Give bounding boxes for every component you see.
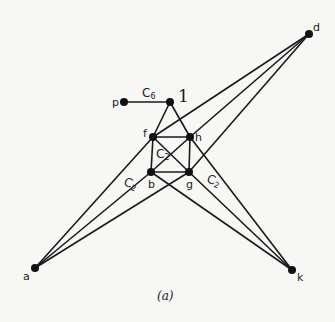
node-d (305, 30, 313, 38)
label-h: h (195, 131, 202, 144)
edge-h-g (189, 137, 190, 172)
node-p (120, 98, 128, 106)
graph-diagram: p 1 f h b g a k d C6 C2 C2 C2 (a) (0, 0, 335, 322)
edge-d-g (189, 34, 309, 172)
label-a: a (23, 270, 30, 283)
edge-label-c6: C6 (142, 86, 155, 101)
node-l (166, 98, 174, 106)
edge-d-f (153, 34, 309, 137)
node-f (149, 133, 157, 141)
edge-label-c2-right: C2 (205, 172, 223, 191)
label-g: g (186, 178, 193, 191)
edge-label-c2-left: C2 (122, 175, 140, 194)
edge-k-h (190, 137, 292, 270)
edge-k-b (151, 172, 292, 270)
label-p: p (112, 96, 119, 109)
edge-d-h (190, 34, 309, 137)
node-a (31, 264, 39, 272)
node-b (147, 168, 155, 176)
node-labels: p 1 f h b g a k d (23, 21, 320, 284)
edge-a-f (35, 137, 153, 268)
edge-f-b (151, 137, 153, 172)
label-l: 1 (178, 86, 189, 106)
node-g (185, 168, 193, 176)
label-d: d (313, 21, 320, 34)
label-f: f (143, 127, 148, 140)
label-b: b (148, 178, 155, 191)
node-h (186, 133, 194, 141)
edge-k-g (189, 172, 292, 270)
label-k: k (297, 271, 304, 284)
edge-a-g (35, 172, 189, 268)
figure-caption: (a) (157, 289, 174, 303)
node-k (288, 266, 296, 274)
edge-label-c2-center: C2 (156, 147, 169, 162)
edges (35, 34, 309, 270)
